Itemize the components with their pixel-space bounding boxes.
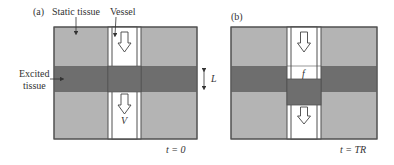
static-tissue-label: Static tissue	[52, 6, 100, 17]
velocity-label: V	[121, 115, 127, 126]
vessel-excited-band	[108, 66, 141, 92]
panel-a-label: (a)	[33, 6, 44, 17]
diagram-canvas	[0, 0, 394, 165]
displaced-excited-bolus	[287, 79, 321, 105]
excited-tissue-label-line1: Excited	[19, 68, 50, 79]
vessel-label: Vessel	[110, 6, 136, 17]
excited-tissue-label-line2: tissue	[23, 80, 46, 91]
fraction-label: f	[302, 68, 305, 79]
panel-b	[231, 27, 377, 139]
panel-b-label: (b)	[231, 11, 243, 22]
panel-a-time-label: t = 0	[166, 144, 186, 155]
thickness-label: L	[211, 73, 217, 84]
panel-b-time-label: t = TR	[340, 144, 366, 155]
